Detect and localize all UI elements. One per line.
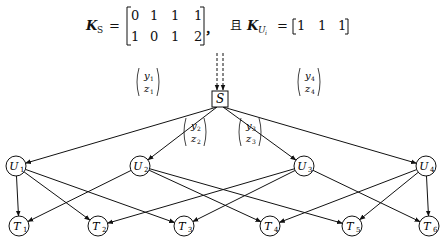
ku-equals: = bbox=[277, 18, 288, 33]
svg-text:1: 1 bbox=[131, 29, 139, 44]
edge-label-4: y4z4 bbox=[298, 68, 320, 96]
nodes: SU1U2U3U4T1T2T3T4T5T6 bbox=[6, 91, 439, 236]
ku-bracket-left bbox=[293, 19, 296, 34]
edges bbox=[16, 107, 428, 223]
edge-u1-t1 bbox=[16, 176, 18, 216]
svg-text:z: z bbox=[245, 133, 252, 144]
edge-label-1: y1z1 bbox=[137, 68, 159, 96]
svg-text:1: 1 bbox=[150, 75, 154, 82]
ks-sub: S bbox=[97, 25, 103, 35]
target-node-6: T6 bbox=[419, 216, 439, 236]
svg-text:z: z bbox=[190, 133, 197, 144]
svg-text:1: 1 bbox=[23, 226, 27, 234]
svg-text:y: y bbox=[143, 70, 150, 81]
svg-text:4: 4 bbox=[311, 88, 315, 95]
svg-text:6: 6 bbox=[433, 226, 438, 234]
svg-text:1: 1 bbox=[171, 8, 179, 23]
svg-text:U: U bbox=[419, 160, 429, 173]
target-node-2: T2 bbox=[88, 216, 108, 236]
svg-text:5: 5 bbox=[356, 226, 360, 234]
svg-text:4: 4 bbox=[311, 75, 315, 82]
user-node-2: U2 bbox=[130, 156, 150, 176]
svg-text:y: y bbox=[245, 120, 252, 131]
svg-text:4: 4 bbox=[274, 226, 279, 234]
user-node-3: U3 bbox=[294, 156, 314, 176]
svg-text:1: 1 bbox=[338, 18, 346, 33]
edge-s-u3 bbox=[223, 107, 296, 160]
svg-text:1: 1 bbox=[171, 29, 179, 44]
svg-text:1: 1 bbox=[194, 8, 202, 23]
svg-text:y: y bbox=[190, 120, 197, 131]
svg-text:1: 1 bbox=[318, 18, 326, 33]
svg-text:1: 1 bbox=[150, 88, 154, 95]
edge-u1-t3 bbox=[25, 169, 174, 222]
target-node-4: T4 bbox=[260, 216, 280, 236]
ks-matrix: 0 1 1 1 1 0 1 2 bbox=[131, 8, 202, 44]
svg-text:2: 2 bbox=[144, 166, 148, 174]
svg-text:1: 1 bbox=[297, 18, 305, 33]
user-node-4: U4 bbox=[416, 156, 436, 176]
edge-label-2: y2z2 bbox=[184, 118, 206, 146]
svg-text:1: 1 bbox=[150, 8, 158, 23]
edge-u4-t6 bbox=[426, 176, 428, 216]
ku-matrix: 1 1 1 bbox=[297, 18, 346, 33]
source-node-label: S bbox=[216, 92, 224, 106]
edge-u3-t2 bbox=[108, 169, 295, 223]
svg-text:0: 0 bbox=[150, 29, 158, 44]
svg-text:2: 2 bbox=[102, 226, 106, 234]
user-node-1: U1 bbox=[6, 156, 26, 176]
svg-text:2: 2 bbox=[197, 138, 201, 145]
target-node-3: T3 bbox=[174, 216, 194, 236]
svg-text:2: 2 bbox=[194, 29, 202, 44]
input-arrows bbox=[217, 53, 223, 90]
network-coding-diagram: K S = 0 1 1 1 1 0 1 2 ， 且 K U i = 1 1 1 bbox=[0, 0, 441, 245]
svg-text:3: 3 bbox=[252, 125, 256, 132]
ks-equals: = bbox=[109, 18, 120, 33]
svg-text:z: z bbox=[143, 83, 150, 94]
edge-s-u2 bbox=[148, 107, 217, 160]
svg-text:1: 1 bbox=[20, 166, 24, 174]
svg-text:y: y bbox=[304, 70, 311, 81]
svg-text:U: U bbox=[133, 160, 143, 173]
edge-u2-t1 bbox=[28, 170, 131, 221]
separator: ， bbox=[205, 21, 218, 36]
ku-subsub: i bbox=[265, 29, 267, 36]
svg-text:2: 2 bbox=[197, 125, 201, 132]
svg-text:z: z bbox=[304, 83, 311, 94]
svg-text:3: 3 bbox=[188, 226, 192, 234]
target-node-1: T1 bbox=[9, 216, 29, 236]
target-node-5: T5 bbox=[342, 216, 362, 236]
formula: K S = 0 1 1 1 1 0 1 2 ， 且 K U i = 1 1 1 bbox=[85, 7, 348, 45]
edge-u4-t5 bbox=[360, 172, 418, 219]
edge-s-u4 bbox=[223, 107, 416, 163]
svg-text:0: 0 bbox=[131, 8, 139, 23]
svg-text:3: 3 bbox=[308, 166, 312, 174]
conjunction: 且 bbox=[230, 19, 242, 33]
svg-text:4: 4 bbox=[430, 166, 435, 174]
svg-text:U: U bbox=[9, 160, 19, 173]
svg-text:U: U bbox=[297, 160, 307, 173]
svg-text:3: 3 bbox=[252, 138, 256, 145]
edge-s-u1 bbox=[26, 107, 217, 163]
edge-u4-t4 bbox=[279, 170, 416, 223]
